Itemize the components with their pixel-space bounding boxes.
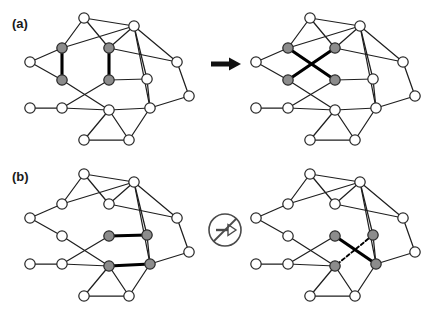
- graph-node: [305, 169, 315, 179]
- graph-node: [124, 291, 134, 301]
- graph-node: [142, 74, 152, 84]
- graph-node: [398, 213, 408, 223]
- graph-node: [124, 135, 134, 145]
- graph-node: [57, 231, 67, 241]
- graph-node: [79, 135, 89, 145]
- graph-node: [104, 199, 114, 209]
- graph-node-marked: [330, 261, 340, 271]
- graph-node: [330, 199, 340, 209]
- graph-node: [368, 74, 378, 84]
- graph-node: [350, 135, 360, 145]
- figure-root: (a) (b): [0, 0, 431, 313]
- graph-node: [355, 21, 365, 31]
- graph-node: [355, 177, 365, 187]
- graph-node: [172, 213, 182, 223]
- graph-node-marked: [283, 43, 293, 53]
- figure-canvas: (a) (b): [0, 0, 431, 313]
- graph-node-marked: [330, 75, 340, 85]
- graph-node: [251, 259, 261, 269]
- graph-node: [129, 177, 139, 187]
- graph-node: [283, 103, 293, 113]
- graph-node: [371, 103, 381, 113]
- graph-node: [305, 13, 315, 23]
- graph-node: [305, 135, 315, 145]
- graph-node-marked: [142, 230, 152, 240]
- graph-node: [305, 291, 315, 301]
- graph-node: [350, 291, 360, 301]
- graph-edge-highlighted: [109, 264, 150, 266]
- graph-node: [172, 57, 182, 67]
- graph-node-marked: [283, 75, 293, 85]
- graph-node: [410, 247, 420, 257]
- graph-node: [251, 103, 261, 113]
- graph-node: [25, 57, 35, 67]
- graph-node: [57, 199, 67, 209]
- panel-b-operator-prohibited: [209, 214, 241, 246]
- graph-node: [25, 103, 35, 113]
- panel-b-label: (b): [12, 169, 29, 184]
- graph-node: [398, 57, 408, 67]
- graph-node: [79, 291, 89, 301]
- graph-node-marked: [104, 231, 114, 241]
- graph-node: [25, 259, 35, 269]
- graph-node: [25, 213, 35, 223]
- graph-node-marked: [104, 261, 114, 271]
- graph-node: [145, 103, 155, 113]
- graph-node: [283, 231, 293, 241]
- graph-node: [283, 199, 293, 209]
- graph-node-marked: [145, 259, 155, 269]
- graph-node-marked: [57, 75, 67, 85]
- graph-node-marked: [368, 230, 378, 240]
- graph-node-marked: [371, 259, 381, 269]
- graph-node: [283, 259, 293, 269]
- graph-node-marked: [330, 231, 340, 241]
- graph-node: [79, 169, 89, 179]
- graph-node: [184, 91, 194, 101]
- graph-node: [410, 91, 420, 101]
- graph-node: [251, 213, 261, 223]
- panel-a-label: (a): [12, 16, 28, 31]
- graph-node: [330, 105, 340, 115]
- graph-node-marked: [104, 75, 114, 85]
- graph-node: [57, 259, 67, 269]
- graph-node: [104, 105, 114, 115]
- graph-node: [79, 13, 89, 23]
- graph-node-marked: [57, 43, 67, 53]
- graph-node: [251, 57, 261, 67]
- graph-node-marked: [330, 43, 340, 53]
- graph-node: [184, 247, 194, 257]
- graph-node-marked: [104, 43, 114, 53]
- graph-node: [57, 103, 67, 113]
- graph-node: [129, 21, 139, 31]
